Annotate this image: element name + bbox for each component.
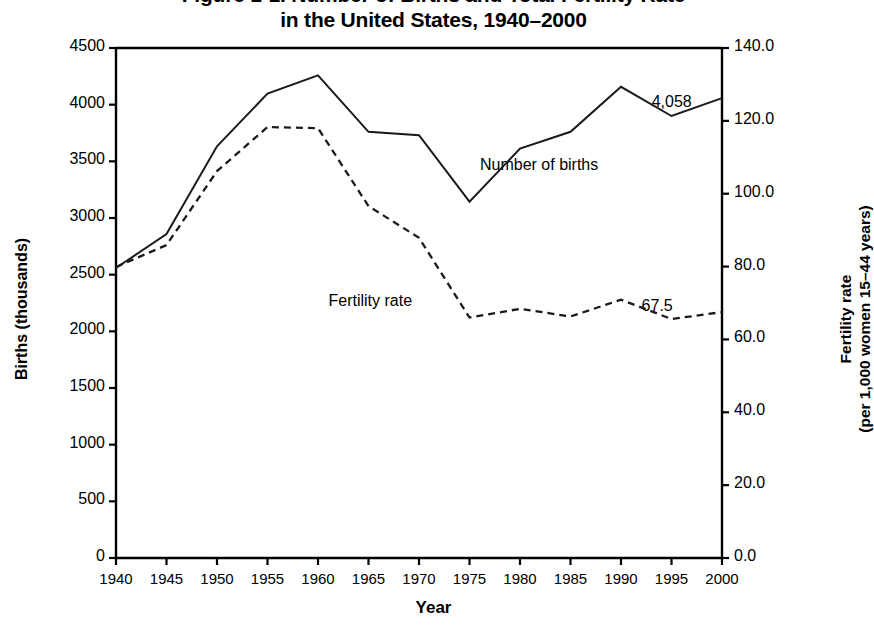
data-series <box>116 75 722 319</box>
series-line-fertility-rate <box>116 127 722 319</box>
series-line-number-of-births <box>116 75 722 268</box>
tick-marks <box>109 48 729 565</box>
